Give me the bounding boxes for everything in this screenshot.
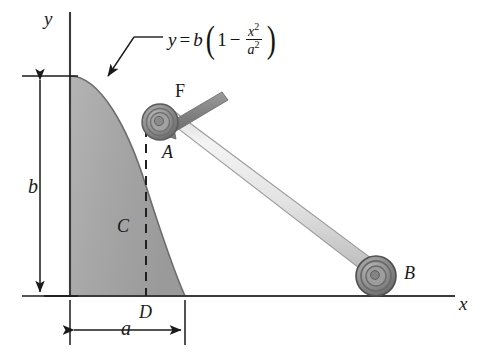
curve-equation-label: y = b ( 1 − x2 a2 ) xyxy=(168,22,278,58)
dimension-label-a: a xyxy=(121,318,131,338)
roller-a xyxy=(142,104,178,140)
equation-coefficient: b xyxy=(193,29,203,51)
denominator-exponent: 2 xyxy=(255,39,260,50)
denominator-base: a xyxy=(248,42,255,57)
equation-lhs: y xyxy=(168,29,176,51)
force-label-f: F xyxy=(175,82,185,100)
point-label-a: A xyxy=(162,143,173,161)
centroid-label-c: C xyxy=(117,217,129,235)
point-label-d: D xyxy=(139,303,152,321)
equation-equals: = xyxy=(179,29,190,51)
x-axis-label: x xyxy=(459,294,467,313)
equation-paren-close: ) xyxy=(266,24,275,55)
equation-fraction: x2 a2 xyxy=(246,22,262,58)
fraction-numerator: x2 xyxy=(246,22,261,39)
equation-one: 1 xyxy=(217,29,227,51)
connecting-rod-ab xyxy=(163,112,387,281)
fraction-denominator: a2 xyxy=(246,40,262,57)
y-axis-label: y xyxy=(44,9,52,28)
equation-leader-line xyxy=(108,37,163,76)
numerator-exponent: 2 xyxy=(254,21,259,32)
point-label-b: B xyxy=(404,264,415,282)
equation-minus: − xyxy=(230,29,241,51)
physics-diagram-figure: y = b ( 1 − x2 a2 ) y x A B C D F b a xyxy=(0,0,486,357)
roller-b xyxy=(356,256,396,296)
equation-paren-open: ( xyxy=(205,24,214,55)
dimension-label-b: b xyxy=(28,176,38,196)
